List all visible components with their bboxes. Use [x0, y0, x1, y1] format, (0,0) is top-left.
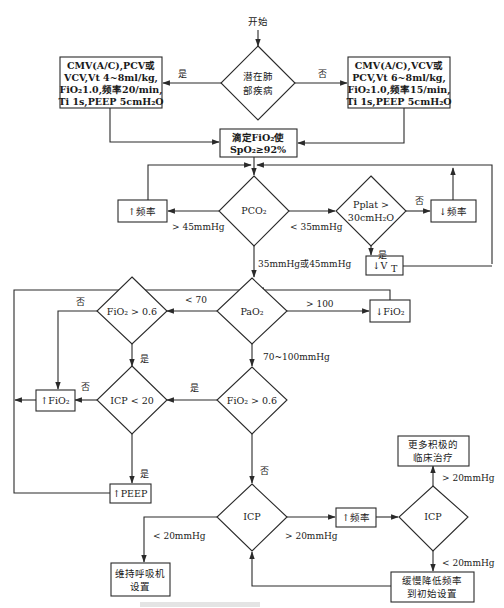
titrate-line-1: 滴定FiO₂使: [232, 132, 285, 143]
label-fio2-lower-no: 否: [260, 466, 269, 476]
label-lung-no: 否: [318, 69, 327, 79]
pao2-decision: PaO₂: [217, 278, 287, 344]
maintain-settings-box: 维持呼吸机 设置: [111, 563, 170, 596]
left-settings-line-4: Ti 1s,PEEP 5cmH₂O: [58, 96, 163, 108]
label-fio2-lower-yes: 是: [190, 383, 199, 393]
icp-right-label: ICP: [424, 511, 442, 522]
titrate-line-2: SpO₂≥92%: [230, 144, 286, 155]
right-settings-line-3: FiO₂1.0,频率15/min,: [347, 84, 450, 96]
edge-right-to-titrate: [298, 108, 404, 143]
right-settings-line-4: Ti 1s,PEEP 5cmH₂O: [346, 96, 451, 108]
pplat-decision: Pplat > 30cmH₂O: [336, 176, 406, 246]
increase-peep-box: ↑PEEP: [110, 484, 151, 503]
aggressive-line-2: 临床治疗: [413, 452, 453, 463]
decrease-fio2-box: ↓FiO₂: [370, 300, 410, 322]
maintain-line-2: 设置: [130, 581, 150, 592]
left-settings-line-1: CMV(A/C),PCV或: [67, 60, 155, 72]
icp-main-label: ICP: [243, 511, 261, 522]
label-icp20-no: 否: [81, 382, 90, 392]
label-fio2-upper-yes: 是: [140, 354, 149, 364]
fio2-gt-06-lower-decision: FiO₂ > 0.6: [217, 367, 287, 434]
increase-rate-box-1: ↑频率: [118, 200, 167, 222]
label-pplat-no: 否: [415, 196, 424, 206]
decrease-vt-subscript: T: [391, 263, 398, 274]
label-icp-right-high: > 20mmHg: [442, 473, 495, 483]
pco2-label: PCO₂: [241, 205, 266, 216]
increase-rate-1-label: ↑频率: [128, 206, 156, 217]
label-icp20-yes: 是: [140, 469, 149, 479]
pplat-line-2: 30cmH₂O: [348, 212, 395, 223]
right-settings-line-1: CMV(A/C),VCV或: [355, 60, 443, 72]
fio2-upper-label: FiO₂ > 0.6: [107, 306, 157, 317]
lung-disease-line-1: 潜在肺: [243, 71, 273, 82]
decrease-rate-box: ↓频率: [431, 200, 476, 222]
label-pco2-high: > 45mmHg: [172, 222, 225, 232]
icp-lt-20-decision: ICP < 20: [97, 366, 167, 434]
label-pao2-high: > 100: [306, 299, 334, 309]
label-icp-main-high: > 20mmHg: [285, 531, 338, 541]
aggressive-treatment-box: 更多积极的 临床治疗: [398, 436, 469, 466]
label-icp-right-low: < 20mmHg: [442, 558, 495, 568]
left-settings-line-2: VCV,Vt 4~8ml/kg,: [63, 72, 158, 84]
fio2-lower-label: FiO₂ > 0.6: [227, 395, 277, 406]
label-icp-main-low: < 20mmHg: [153, 531, 206, 541]
start-label: 开始: [248, 16, 268, 27]
maintain-line-1: 维持呼吸机: [115, 568, 165, 579]
caption-remnant: [140, 602, 260, 607]
increase-fio2-label: ↑FiO₂: [40, 395, 69, 406]
slow-reduce-line-1: 缓慢降低频率: [402, 575, 462, 586]
increase-peep-label: ↑PEEP: [113, 488, 148, 499]
pco2-decision: PCO₂: [219, 176, 289, 246]
increase-rate-box-2: ↑频率: [336, 508, 376, 527]
decrease-vt-label: ↓V: [373, 260, 388, 271]
icp-main-decision: ICP: [217, 484, 287, 551]
slow-reduce-line-2: 到初始设置: [407, 588, 457, 599]
icp-right-decision: ICP: [399, 486, 468, 551]
label-pao2-low: < 70: [185, 295, 207, 305]
pao2-label: PaO₂: [240, 306, 263, 317]
icp-lt-20-label: ICP < 20: [110, 395, 154, 406]
lung-disease-decision: 潜在肺 部疾病: [221, 46, 295, 120]
edge-left-to-titrate: [110, 108, 219, 142]
lung-disease-line-2: 部疾病: [243, 85, 273, 96]
aggressive-line-1: 更多积极的: [408, 439, 458, 450]
slow-reduce-rate-box: 缓慢降低频率 到初始设置: [391, 572, 474, 602]
increase-rate-2-label: ↑频率: [342, 512, 370, 523]
nodes: 开始 潜在肺 部疾病 CMV(A/C),PCV或 VCV,Vt 4~8ml/kg…: [36, 16, 476, 602]
decrease-fio2-label: ↓FiO₂: [375, 306, 404, 317]
label-pco2-normal: 35mmHg或45mmHg: [258, 258, 351, 269]
left-ventilator-settings-box: CMV(A/C),PCV或 VCV,Vt 4~8ml/kg, FiO₂1.0,频…: [58, 57, 163, 108]
label-pplat-yes: 是: [378, 250, 387, 260]
right-ventilator-settings-box: CMV(A/C),VCV或 PCV,Vt 6~8ml/kg, FiO₂1.0,频…: [346, 57, 451, 108]
increase-fio2-box: ↑FiO₂: [36, 390, 75, 411]
pplat-line-1: Pplat >: [353, 199, 389, 210]
label-pao2-normal: 70~100mmHg: [263, 352, 330, 362]
label-fio2-upper-no: 否: [76, 297, 85, 307]
left-settings-line-3: FiO₂1.0,频率20/min,: [59, 84, 162, 96]
flowchart-canvas: 开始 潜在肺 部疾病 CMV(A/C),PCV或 VCV,Vt 4~8ml/kg…: [0, 0, 504, 608]
label-pco2-low: < 35mmHg: [290, 222, 343, 232]
label-lung-yes: 是: [178, 69, 187, 79]
edge-slow-reduce-back: [252, 552, 391, 586]
titrate-fio2-box: 滴定FiO₂使 SpO₂≥92%: [220, 129, 297, 157]
decrease-rate-label: ↓频率: [439, 206, 467, 217]
fio2-gt-06-upper-decision: FiO₂ > 0.6: [97, 277, 167, 344]
edge-fio2-upper-no: [58, 311, 97, 389]
right-settings-line-2: PCV,Vt 6~8ml/kg,: [352, 72, 446, 84]
